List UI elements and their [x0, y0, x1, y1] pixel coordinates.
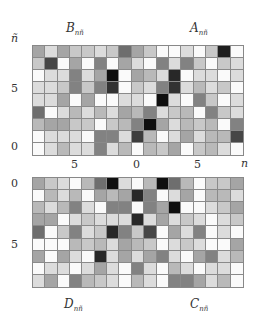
heatmap-cell	[45, 82, 57, 94]
heatmap-cell	[58, 226, 70, 238]
heatmap-cell	[169, 82, 181, 94]
heatmap-bottom	[32, 177, 244, 288]
heatmap-cell	[144, 46, 156, 58]
heatmap-cell	[194, 46, 206, 58]
heatmap-cell	[70, 202, 82, 214]
heatmap-cell	[45, 178, 57, 190]
heatmap-cell	[107, 58, 119, 70]
heatmap-cell	[157, 202, 169, 214]
heatmap-cell	[132, 131, 144, 143]
heatmap-cell	[132, 178, 144, 190]
heatmap-cell	[218, 107, 230, 119]
heatmap-cell	[206, 58, 218, 70]
heatmap-cell	[70, 226, 82, 238]
heatmap-cell	[206, 131, 218, 143]
heatmap-cell	[119, 119, 131, 131]
heatmap-cell	[157, 226, 169, 238]
heatmap-cell	[144, 226, 156, 238]
heatmap-cell	[169, 143, 181, 155]
heatmap-cell	[144, 131, 156, 143]
heatmap-cell	[206, 82, 218, 94]
heatmap-cell	[194, 82, 206, 94]
heatmap-cell	[33, 226, 45, 238]
heatmap-cell	[231, 107, 243, 119]
heatmap-cell	[194, 119, 206, 131]
heatmap-cell	[181, 94, 193, 106]
heatmap-cell	[132, 58, 144, 70]
heatmap-cell	[58, 275, 70, 287]
bottom-y-tick-0: 0	[11, 178, 18, 189]
heatmap-cell	[181, 226, 193, 238]
heatmap-cell	[181, 46, 193, 58]
heatmap-cell	[33, 214, 45, 226]
heatmap-cell	[169, 251, 181, 263]
heatmap-cell	[144, 70, 156, 82]
heatmap-cell	[107, 70, 119, 82]
heatmap-cell	[132, 94, 144, 106]
heatmap-cell	[157, 131, 169, 143]
heatmap-cell	[194, 251, 206, 263]
heatmap-cell	[206, 251, 218, 263]
heatmap-cell	[82, 119, 94, 131]
heatmap-cell	[58, 131, 70, 143]
heatmap-cell	[194, 214, 206, 226]
heatmap-cell	[107, 226, 119, 238]
heatmap-cell	[231, 239, 243, 251]
panel-label-d: Dnñ	[64, 298, 83, 313]
label-sub: nñ	[75, 29, 84, 37]
heatmap-cell	[218, 82, 230, 94]
heatmap-cell	[181, 190, 193, 202]
heatmap-cell	[231, 214, 243, 226]
heatmap-cell	[218, 190, 230, 202]
y-axis-label: ñ	[11, 33, 18, 44]
heatmap-cell	[157, 239, 169, 251]
heatmap-cell	[119, 70, 131, 82]
heatmap-cell	[45, 226, 57, 238]
heatmap-cell	[132, 202, 144, 214]
heatmap-cell	[181, 239, 193, 251]
heatmap-cell	[82, 107, 94, 119]
heatmap-cell	[231, 143, 243, 155]
heatmap-cell	[144, 202, 156, 214]
heatmap-cell	[58, 107, 70, 119]
heatmap-cell	[33, 143, 45, 155]
heatmap-cell	[82, 263, 94, 275]
heatmap-cell	[82, 94, 94, 106]
heatmap-cell	[45, 214, 57, 226]
heatmap-cell	[33, 202, 45, 214]
heatmap-cell	[181, 275, 193, 287]
heatmap-cell	[132, 46, 144, 58]
heatmap-cell	[45, 119, 57, 131]
heatmap-cell	[144, 251, 156, 263]
heatmap-cell	[218, 214, 230, 226]
heatmap-cell	[107, 82, 119, 94]
heatmap-cell	[144, 82, 156, 94]
heatmap-cell	[82, 131, 94, 143]
heatmap-cell	[45, 239, 57, 251]
heatmap-cell	[119, 178, 131, 190]
heatmap-cell	[181, 119, 193, 131]
heatmap-cell	[144, 178, 156, 190]
heatmap-cell	[132, 107, 144, 119]
heatmap-cell	[157, 119, 169, 131]
heatmap-cell	[218, 263, 230, 275]
heatmap-cell	[70, 178, 82, 190]
heatmap-cell	[95, 239, 107, 251]
label-sub: nñ	[74, 305, 83, 313]
heatmap-cell	[157, 263, 169, 275]
heatmap-cell	[132, 239, 144, 251]
heatmap-cell	[119, 263, 131, 275]
heatmap-cell	[33, 70, 45, 82]
heatmap-cell	[58, 190, 70, 202]
heatmap-cell	[132, 190, 144, 202]
heatmap-cell	[157, 251, 169, 263]
heatmap-cell	[218, 119, 230, 131]
heatmap-cell	[231, 190, 243, 202]
heatmap-cell	[58, 214, 70, 226]
heatmap-cell	[70, 94, 82, 106]
heatmap-cell	[206, 275, 218, 287]
heatmap-cell	[107, 178, 119, 190]
heatmap-cell	[144, 94, 156, 106]
heatmap-cell	[157, 190, 169, 202]
heatmap-cell	[33, 131, 45, 143]
